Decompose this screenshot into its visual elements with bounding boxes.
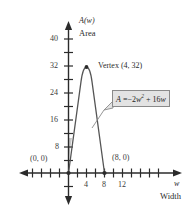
equation-term1-coefficient: −2: [127, 95, 136, 104]
y-axis-word-label: Area: [79, 29, 96, 38]
x-tick-label-4: 4: [84, 181, 88, 189]
equation-term1-exponent: 2: [141, 93, 144, 99]
vertex-point: [85, 65, 89, 69]
y-tick-label-16: 16: [50, 116, 58, 124]
x-tick-label-8: 8: [102, 181, 106, 189]
root-point: [102, 171, 106, 175]
x-axis-arrow-left: [19, 169, 28, 176]
equation-callout-box: A =−2w2 + 16w: [112, 90, 170, 107]
equation-lhs: A: [116, 95, 121, 104]
origin-point-label: (0, 0): [30, 155, 47, 163]
equation-term2-coefficient: 16: [153, 95, 161, 104]
equation-term2-variable: w: [161, 95, 166, 104]
y-axis-arrow-up: [65, 21, 72, 30]
y-tick-label-8: 8: [55, 143, 59, 151]
y-axis-symbol-label: A(w): [79, 17, 95, 25]
y-tick-label-24: 24: [50, 89, 58, 97]
root-point-label: (8, 0): [112, 154, 129, 162]
parabola-curve: [69, 67, 105, 173]
vertex-label: Vertex (4, 32): [98, 62, 142, 70]
origin-point: [66, 171, 70, 175]
x-tick-label-12: 12: [118, 181, 126, 189]
graph-figure: A(w) Area w Width 40 32 24 16 8 4 8 12 (…: [0, 0, 193, 211]
x-axis-word-label: Width: [160, 192, 181, 201]
y-tick-label-32: 32: [50, 62, 58, 70]
x-axis-symbol-label: w: [174, 180, 179, 188]
x-axis-arrow-right: [173, 169, 182, 176]
y-tick-label-40: 40: [50, 35, 58, 43]
y-axis-arrow-down: [65, 196, 72, 205]
equation-plus: +: [146, 95, 151, 104]
